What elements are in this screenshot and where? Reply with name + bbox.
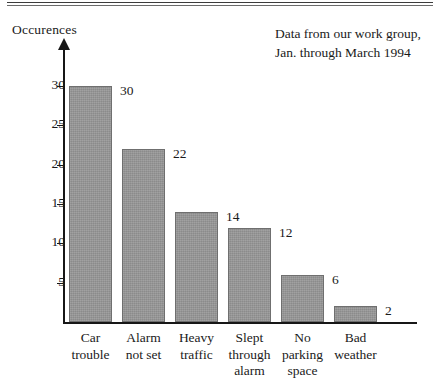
y-axis-title: Occurences — [12, 22, 77, 38]
top-rule-secondary — [7, 5, 433, 6]
x-category-label-line: Bad — [324, 330, 387, 347]
bar — [281, 275, 324, 322]
y-tick-label: 25 — [39, 116, 65, 132]
y-tick-25: 25 — [0, 125, 65, 126]
bar-value-label: 22 — [173, 146, 187, 162]
bar-value-label: 2 — [385, 303, 392, 319]
y-tick-label: 30 — [39, 77, 65, 93]
x-category-label-line: weather — [324, 347, 387, 364]
y-tick-10: 10 — [0, 243, 65, 244]
bar-chart-figure: Occurences Data from our work group, Jan… — [0, 0, 437, 387]
y-tick-30: 30 — [0, 86, 65, 87]
y-tick-15: 15 — [0, 204, 65, 205]
bar — [69, 86, 112, 322]
bar-value-label: 30 — [120, 83, 134, 99]
x-category-label: Badweather — [324, 330, 387, 363]
top-rule-primary — [7, 2, 433, 3]
bar — [175, 212, 218, 322]
y-tick-label: 5 — [39, 274, 65, 290]
source-annotation-line-1: Data from our work group, — [275, 24, 421, 43]
y-tick-5: 5 — [0, 283, 65, 284]
source-annotation-line-2: Jan. through March 1994 — [275, 43, 421, 62]
bar-value-label: 12 — [279, 225, 293, 241]
y-tick-label: 20 — [39, 156, 65, 172]
y-tick-label: 10 — [39, 234, 65, 250]
bar — [228, 228, 271, 322]
bar-value-label: 6 — [332, 272, 339, 288]
source-annotation: Data from our work group, Jan. through M… — [275, 24, 421, 62]
bar — [334, 306, 377, 322]
y-tick-20: 20 — [0, 165, 65, 166]
x-axis-line — [63, 322, 417, 324]
y-tick-label: 15 — [39, 195, 65, 211]
bar — [122, 149, 165, 322]
bar-value-label: 14 — [226, 209, 240, 225]
x-category-label-line: space — [271, 363, 334, 380]
